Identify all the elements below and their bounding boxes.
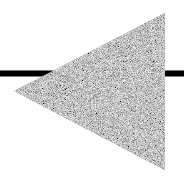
figure-canvas: Left-pointing triangle with grey noise t… — [0, 0, 184, 178]
figure-svg — [0, 0, 184, 178]
